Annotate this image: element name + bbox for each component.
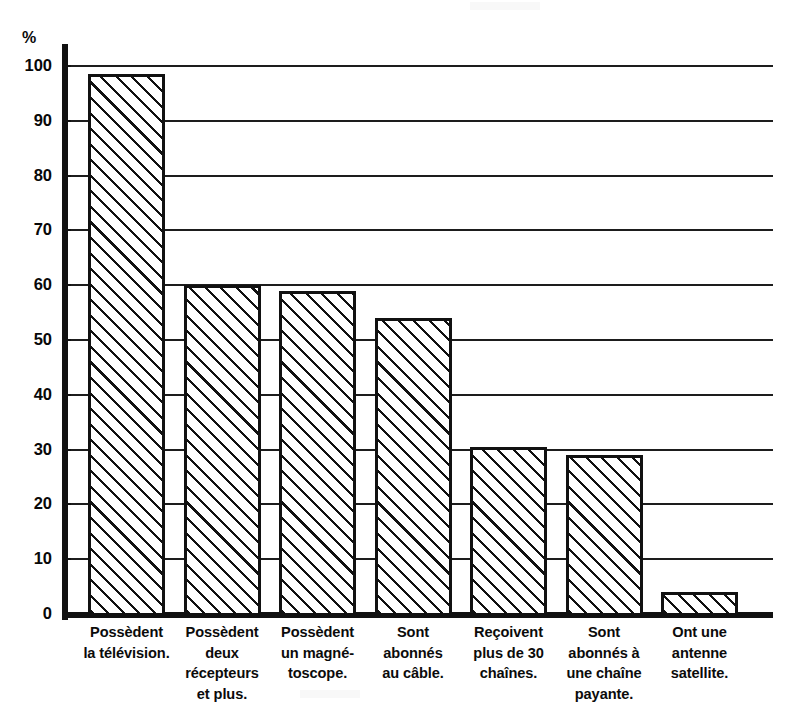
bar [88,74,165,616]
x-axis-label-line: antenne [640,643,760,664]
x-axis-label-line: payante. [544,684,664,705]
y-axis-tick [62,120,71,122]
bar [279,291,356,616]
y-axis-tick [62,284,71,286]
x-axis-label-line: et plus. [162,684,282,705]
y-axis-tick-label: 20 [0,495,52,512]
gridline [70,284,773,286]
y-axis-tick-label: 90 [0,112,52,129]
y-axis-tick-label: 0 [0,605,52,622]
bar-chart: % 1009080706050403020100Possèdentla télé… [0,0,805,727]
x-axis-category-label: Ont uneantennesatellite. [640,622,760,684]
y-axis-tick [62,229,71,231]
bar [661,592,738,616]
bar [470,447,547,616]
y-axis-tick-label: 40 [0,386,52,403]
y-axis-tick [62,449,71,451]
y-axis-tick [62,503,71,505]
gridline [70,175,773,177]
y-axis-tick-label: 50 [0,331,52,348]
bar [375,318,452,616]
bar [566,455,643,616]
y-axis-tick-label: 10 [0,550,52,567]
y-axis-tick-label: 60 [0,276,52,293]
y-axis-tick [62,175,71,177]
x-axis-label-line: Ont une [640,622,760,643]
x-axis-label-line: satellite. [640,663,760,684]
gridline [70,65,773,67]
y-axis-tick [62,65,71,67]
gridline [70,229,773,231]
y-axis-tick [62,558,71,560]
y-axis-tick [62,394,71,396]
plot-area: 1009080706050403020100Possèdentla télévi… [0,0,805,727]
y-axis-line [62,44,68,620]
y-axis-tick [62,339,71,341]
y-axis-tick-label: 30 [0,441,52,458]
y-axis-tick-label: 70 [0,221,52,238]
y-axis-tick-label: 80 [0,167,52,184]
y-axis-tick-label: 100 [0,57,52,74]
bar [184,285,261,616]
gridline [70,120,773,122]
